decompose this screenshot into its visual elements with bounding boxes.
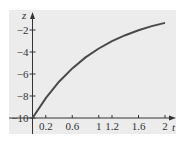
line-chart: −2−4−6−8−10 0.20.611.21.62 z t <box>0 0 186 144</box>
x-tick-label: 1.6 <box>132 120 146 132</box>
x-tick-label: 2 <box>162 120 168 132</box>
x-tick-label: 0.6 <box>65 120 79 132</box>
x-tick-label: 1.2 <box>105 120 119 132</box>
y-tick-label: −4 <box>17 46 29 58</box>
x-tick-label: 0.2 <box>39 120 53 132</box>
x-tick-label: 1 <box>96 120 102 132</box>
y-axis-label: z <box>21 9 27 21</box>
y-tick-label: −8 <box>17 90 29 102</box>
y-tick-label: −2 <box>17 24 29 36</box>
y-tick-label: −6 <box>17 68 29 80</box>
